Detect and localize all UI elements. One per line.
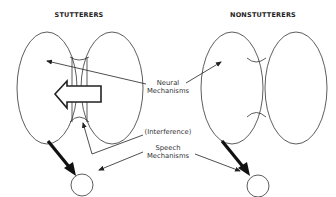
title-nonstutterers: NONSTUTTERERS — [230, 11, 296, 19]
right-hemisphere — [265, 32, 327, 144]
interference-arrow-icon — [55, 81, 101, 108]
left-hemisphere — [201, 32, 263, 144]
title-stutterers: STUTTERERS — [55, 11, 104, 19]
brain-diagram: STUTTERERS NONSTUTTERERS Neural Mechanis… — [0, 0, 336, 197]
nonstutterers-brain — [201, 32, 327, 197]
label-speech-2: Mechanisms — [147, 152, 190, 160]
stutterers-brain — [17, 32, 143, 196]
bridge-bottom — [247, 113, 266, 118]
label-interference: (Interference) — [145, 128, 192, 136]
label-neural-1: Neural — [157, 79, 180, 87]
neural-pointer-left — [47, 61, 146, 84]
label-neural-2: Mechanisms — [147, 87, 190, 95]
label-speech-1: Speech — [155, 144, 180, 152]
bridge-top — [247, 58, 266, 62]
speech-circle-left — [71, 174, 93, 196]
speech-circle-right — [247, 175, 269, 197]
speech-pointer-left — [99, 152, 143, 170]
